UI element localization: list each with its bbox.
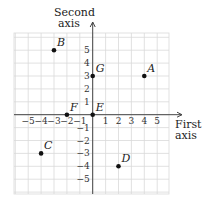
y-tick-label: 3 [84,71,90,81]
y-tick-label: 2 [84,84,90,94]
x-tick-label: 3 [129,116,135,126]
point-label: G [96,62,105,75]
y-tick-label: −1 [76,123,89,133]
x-tick-label: −3 [47,116,61,126]
y-tick-label: 5 [84,45,90,55]
x-tick-label: −4 [34,116,48,126]
y-tick-label: −2 [76,136,89,146]
y-tick-label: −3 [76,148,90,158]
y-tick-label: −4 [76,161,90,171]
point-label: A [146,62,155,75]
point-label: B [56,36,65,49]
x-tick-label: −2 [60,116,73,126]
point-marker-icon [90,74,95,79]
plotted-points: ABCDEFG [39,36,156,168]
x-axis-label-line2: axis [175,129,197,142]
coordinate-plane: −5−4−3−2−11234554321−1−2−3−4−5 ABCDEFG S… [0,0,202,204]
point-marker-icon [142,74,147,79]
point-marker-icon [39,151,44,156]
y-tick-label: 1 [84,97,90,107]
point-marker-icon [90,112,95,117]
y-tick-label: −5 [76,174,90,184]
y-tick-label: 4 [84,58,90,68]
point-label: E [95,101,104,114]
point-marker-icon [116,164,121,169]
point-label: D [121,152,131,165]
y-axis-label-line2: axis [58,17,80,30]
x-tick-label: 4 [141,116,147,126]
x-tick-label: 5 [154,116,160,126]
x-tick-label: 1 [103,116,109,126]
x-tick-label: 2 [116,116,122,126]
point-marker-icon [65,112,70,117]
x-tick-label: −5 [22,116,36,126]
point-label: C [44,139,53,152]
point-label: F [69,101,78,114]
point-marker-icon [52,48,57,53]
